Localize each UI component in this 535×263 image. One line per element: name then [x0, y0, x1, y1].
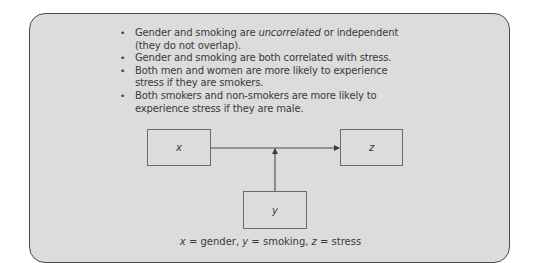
- diagram-caption: x = gender, y = smoking, z = stress: [0, 236, 535, 247]
- node-z-label: z: [369, 142, 374, 153]
- node-x-label: x: [176, 142, 182, 153]
- node-x: x: [147, 129, 211, 166]
- node-y-label: y: [272, 205, 278, 216]
- node-y: y: [243, 191, 307, 229]
- node-z: z: [340, 129, 403, 166]
